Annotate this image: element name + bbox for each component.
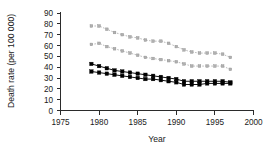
data-point-gray-upper	[105, 28, 108, 31]
data-point-black-upper	[128, 71, 132, 75]
data-point-gray-upper	[167, 42, 170, 45]
data-point-gray-lower	[221, 65, 224, 68]
data-point-gray-upper	[214, 52, 217, 55]
x-tick-label: 2000	[244, 118, 263, 127]
data-point-black-lower	[121, 74, 125, 78]
data-point-black-lower	[190, 83, 194, 87]
data-point-black-lower	[221, 82, 225, 86]
data-point-gray-lower	[167, 59, 170, 62]
chart-container: 0102030405060708090 19751980198519901995…	[0, 0, 269, 152]
data-point-black-lower	[97, 71, 101, 75]
data-point-gray-lower	[190, 65, 193, 68]
x-tick-label: 1990	[167, 118, 186, 127]
data-point-black-lower	[151, 77, 155, 81]
data-point-black-lower	[144, 77, 148, 81]
data-point-gray-upper	[229, 56, 232, 59]
x-tick-label: 1995	[206, 118, 225, 127]
data-point-gray-lower	[105, 45, 108, 48]
data-point-gray-lower	[129, 52, 132, 55]
data-point-gray-upper	[136, 37, 139, 40]
x-axis-ticks: 197519801985199019952000	[51, 111, 263, 128]
data-point-gray-lower	[152, 57, 155, 60]
data-point-black-upper	[175, 77, 179, 81]
data-point-black-upper	[136, 72, 140, 76]
line-chart: 0102030405060708090 19751980198519901995…	[0, 0, 269, 152]
data-point-black-upper	[113, 69, 117, 73]
data-point-black-upper	[190, 80, 194, 84]
data-point-black-lower	[167, 80, 171, 84]
data-point-gray-lower	[113, 47, 116, 50]
x-tick-label: 1980	[90, 118, 109, 127]
data-point-black-lower	[205, 82, 209, 86]
data-point-gray-upper	[221, 53, 224, 56]
x-tick-label: 1975	[51, 118, 70, 127]
series-group	[90, 25, 232, 87]
data-point-black-upper	[198, 80, 202, 84]
data-point-gray-upper	[113, 31, 116, 34]
data-point-black-lower	[159, 78, 163, 82]
data-point-black-lower	[128, 75, 132, 79]
y-tick-label: 70	[44, 31, 54, 40]
data-point-black-upper	[90, 62, 94, 66]
x-axis-label: Year	[148, 134, 166, 144]
y-tick-label: 20	[44, 85, 54, 94]
data-point-black-lower	[198, 83, 202, 87]
data-point-gray-upper	[90, 25, 93, 28]
y-tick-label: 90	[44, 9, 54, 18]
y-tick-label: 0	[48, 107, 53, 116]
data-point-gray-upper	[198, 52, 201, 55]
data-point-black-lower	[182, 83, 186, 87]
x-tick-label: 1985	[129, 118, 148, 127]
data-point-black-lower	[213, 82, 217, 86]
data-point-gray-lower	[229, 68, 232, 71]
data-point-black-lower	[90, 70, 94, 74]
data-point-black-lower	[175, 81, 179, 85]
data-point-black-upper	[159, 75, 163, 79]
data-point-black-upper	[144, 73, 148, 77]
data-point-gray-lower	[144, 56, 147, 59]
data-point-gray-lower	[206, 65, 209, 68]
data-point-gray-lower	[121, 50, 124, 53]
data-point-black-upper	[151, 74, 155, 78]
y-tick-label: 60	[44, 42, 54, 51]
data-point-gray-lower	[183, 63, 186, 66]
data-point-gray-lower	[90, 43, 93, 46]
data-point-black-upper	[97, 64, 101, 68]
data-point-gray-upper	[144, 39, 147, 42]
y-tick-label: 30	[44, 74, 54, 83]
y-axis-label: Death rate (per 100 000)	[6, 14, 16, 108]
y-tick-label: 50	[44, 52, 54, 61]
data-point-gray-lower	[136, 54, 139, 57]
data-point-black-upper	[167, 76, 171, 80]
y-axis-ticks: 0102030405060708090	[44, 9, 61, 116]
data-point-black-lower	[229, 82, 233, 86]
y-tick-label: 10	[44, 96, 54, 105]
data-point-gray-lower	[175, 60, 178, 63]
data-point-gray-upper	[183, 48, 186, 51]
data-point-gray-upper	[160, 40, 163, 43]
y-tick-label: 80	[44, 20, 54, 29]
data-point-gray-upper	[129, 35, 132, 38]
data-point-black-lower	[136, 76, 140, 80]
data-point-black-upper	[105, 67, 109, 71]
data-point-black-lower	[105, 72, 109, 76]
data-point-gray-lower	[214, 65, 217, 68]
data-point-gray-upper	[152, 40, 155, 43]
data-point-gray-upper	[175, 45, 178, 48]
data-point-black-upper	[121, 70, 125, 74]
data-point-gray-lower	[160, 58, 163, 61]
data-point-black-lower	[113, 73, 117, 77]
data-point-black-upper	[182, 80, 186, 84]
data-point-gray-upper	[121, 33, 124, 36]
data-point-gray-lower	[198, 65, 201, 68]
series-line-gray-lower	[91, 43, 230, 69]
data-point-gray-upper	[98, 25, 101, 28]
data-point-gray-lower	[98, 42, 101, 45]
data-point-gray-upper	[206, 52, 209, 55]
y-tick-label: 40	[44, 63, 54, 72]
data-point-gray-upper	[190, 51, 193, 54]
